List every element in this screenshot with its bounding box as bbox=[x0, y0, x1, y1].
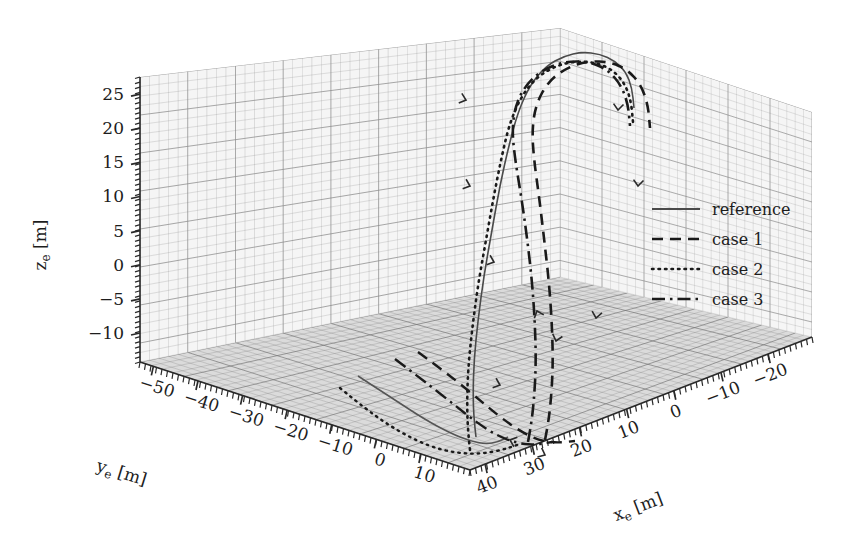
z-label-unit: [m] bbox=[30, 220, 50, 249]
y-tick-label: −50 bbox=[137, 372, 177, 402]
x-tick-label: 40 bbox=[473, 471, 500, 497]
y-tick-label: −20 bbox=[271, 416, 311, 446]
figure-canvas: 2520151050−5−10 −50−40−30−20−10010 40302… bbox=[0, 0, 850, 557]
z-label-sub: e bbox=[39, 254, 53, 261]
z-tick-label: 20 bbox=[102, 118, 124, 138]
z-axis-ticks bbox=[131, 77, 140, 364]
z-tick-label: −10 bbox=[88, 323, 124, 343]
legend-label-case-3[interactable]: case 3 bbox=[712, 290, 763, 309]
y-tick-label: 0 bbox=[372, 448, 388, 470]
x-tick-label: 0 bbox=[667, 400, 684, 423]
svg-text:ye [m]: ye [m] bbox=[92, 455, 149, 492]
x-tick-label: −20 bbox=[750, 359, 791, 391]
z-tick-label: 15 bbox=[102, 152, 124, 172]
y-label-unit: [m] bbox=[115, 462, 149, 490]
svg-text:ze [m]: ze [m] bbox=[30, 220, 53, 271]
y-tick-label: −10 bbox=[315, 430, 355, 460]
z-tick-label: 25 bbox=[102, 84, 124, 104]
x-axis-label: xe [m] bbox=[610, 488, 666, 528]
three-d-plot: 2520151050−5−10 −50−40−30−20−10010 40302… bbox=[0, 0, 850, 557]
legend-label-case-1[interactable]: case 1 bbox=[712, 230, 763, 249]
z-tick-label: 10 bbox=[102, 186, 124, 206]
z-tick-label: −5 bbox=[99, 289, 124, 309]
z-tick-labels: 2520151050−5−10 bbox=[88, 84, 124, 343]
y-axis-label: ye [m] bbox=[92, 455, 149, 492]
legend-label-reference[interactable]: reference bbox=[712, 200, 790, 219]
x-tick-label: 30 bbox=[520, 453, 547, 479]
x-tick-label: −10 bbox=[702, 377, 743, 409]
z-tick-label: 0 bbox=[113, 255, 124, 275]
legend-label-case-2[interactable]: case 2 bbox=[712, 260, 763, 279]
x-tick-label: 20 bbox=[568, 435, 595, 461]
z-label-main: z bbox=[30, 261, 50, 270]
svg-text:xe [m]: xe [m] bbox=[610, 488, 666, 528]
z-tick-label: 5 bbox=[113, 221, 124, 241]
x-label-unit: [m] bbox=[631, 488, 666, 517]
y-tick-label: 10 bbox=[411, 461, 438, 486]
z-axis-label: ze [m] bbox=[30, 220, 53, 271]
x-tick-label: 10 bbox=[615, 416, 642, 442]
